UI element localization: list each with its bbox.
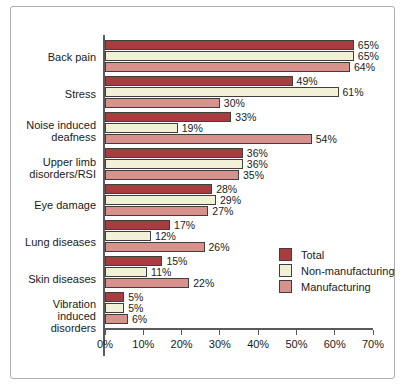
bar-group-vibration-induced-disorders: 5%5%6% bbox=[105, 292, 373, 324]
category-label-upper-limb-disorders-rsi: Upper limb disorders/RSI bbox=[13, 151, 103, 184]
category-label-back-pain: Back pain bbox=[13, 40, 103, 73]
bar-row: 29% bbox=[105, 195, 373, 205]
axis-tick bbox=[258, 330, 259, 335]
bar-row: 27% bbox=[105, 206, 373, 216]
bar-value-label: 17% bbox=[174, 219, 195, 231]
category-label-skin-diseases: Skin diseases bbox=[13, 262, 103, 295]
bar-manufacturing bbox=[105, 242, 205, 252]
bar-row: 35% bbox=[105, 170, 373, 180]
bar-row: 6% bbox=[105, 314, 373, 324]
axis-tick-label: 30% bbox=[209, 338, 231, 350]
bar-value-label: 33% bbox=[235, 111, 256, 123]
category-label-noise-induced-deafness: Noise induced deafness bbox=[13, 114, 103, 147]
bar-total bbox=[105, 220, 170, 230]
bar-row: 64% bbox=[105, 62, 373, 72]
bar-manufacturing bbox=[105, 62, 350, 72]
bar-non-manufacturing bbox=[105, 267, 147, 277]
bar-row: 49% bbox=[105, 76, 373, 86]
bar-group-upper-limb-disorders-rsi: 36%36%35% bbox=[105, 148, 373, 180]
legend-item-manufacturing: Manufacturing bbox=[279, 280, 395, 293]
bar-row: 30% bbox=[105, 98, 373, 108]
bar-row: 17% bbox=[105, 220, 373, 230]
plot-area: 65%65%64%49%61%30%33%19%54%36%36%35%28%2… bbox=[103, 35, 373, 356]
bar-value-label: 6% bbox=[132, 313, 147, 325]
axis-tick-label: 10% bbox=[132, 338, 154, 350]
axis-tick bbox=[373, 330, 374, 335]
category-label-vibration-induced-disorders: Vibration induced disorders bbox=[13, 299, 103, 332]
bar-row: 33% bbox=[105, 112, 373, 122]
bar-group-stress: 49%61%30% bbox=[105, 76, 373, 108]
bar-group-back-pain: 65%65%64% bbox=[105, 40, 373, 72]
category-label-stress: Stress bbox=[13, 77, 103, 110]
bar-row: 61% bbox=[105, 87, 373, 97]
bar-non-manufacturing bbox=[105, 231, 151, 241]
bar-manufacturing bbox=[105, 170, 239, 180]
bar-row: 19% bbox=[105, 123, 373, 133]
bar-total bbox=[105, 256, 162, 266]
axis-tick bbox=[143, 330, 144, 335]
bar-value-label: 61% bbox=[343, 86, 364, 98]
bar-row: 65% bbox=[105, 51, 373, 61]
legend-label-manufacturing: Manufacturing bbox=[301, 281, 371, 293]
bar-chart: Back painStressNoise induced deafnessUpp… bbox=[13, 35, 373, 356]
bar-total bbox=[105, 148, 243, 158]
x-axis: 0%10%20%30%40%50%60%70% bbox=[105, 328, 373, 356]
legend-item-total: Total bbox=[279, 248, 395, 261]
bar-value-label: 22% bbox=[193, 277, 214, 289]
bar-row: 65% bbox=[105, 40, 373, 50]
bar-row: 12% bbox=[105, 231, 373, 241]
bar-non-manufacturing bbox=[105, 51, 354, 61]
bar-total bbox=[105, 76, 293, 86]
axis-tick-label: 20% bbox=[171, 338, 193, 350]
bar-non-manufacturing bbox=[105, 303, 124, 313]
bar-total bbox=[105, 40, 354, 50]
bar-value-label: 12% bbox=[155, 230, 176, 242]
axis-tick-label: 70% bbox=[362, 338, 384, 350]
bar-group-eye-damage: 28%29%27% bbox=[105, 184, 373, 216]
axis-tick-label: 50% bbox=[285, 338, 307, 350]
axis-tick bbox=[181, 330, 182, 335]
legend-swatch-total bbox=[279, 248, 292, 261]
axis-tick bbox=[219, 330, 220, 335]
category-labels: Back painStressNoise induced deafnessUpp… bbox=[13, 35, 103, 356]
bar-value-label: 49% bbox=[297, 75, 318, 87]
bar-total bbox=[105, 184, 212, 194]
bar-value-label: 11% bbox=[151, 266, 171, 278]
legend-swatch-non-manufacturing bbox=[279, 264, 292, 277]
axis-tick-label: 40% bbox=[247, 338, 269, 350]
bar-manufacturing bbox=[105, 206, 208, 216]
bar-row: 36% bbox=[105, 148, 373, 158]
bar-manufacturing bbox=[105, 278, 189, 288]
axis-tick bbox=[296, 330, 297, 335]
bar-non-manufacturing bbox=[105, 195, 216, 205]
legend-label-non-manufacturing: Non-manufacturing bbox=[301, 265, 395, 277]
bar-non-manufacturing bbox=[105, 159, 243, 169]
bar-row: 28% bbox=[105, 184, 373, 194]
bar-total bbox=[105, 112, 231, 122]
bar-value-label: 35% bbox=[243, 169, 264, 181]
bar-value-label: 27% bbox=[212, 205, 233, 217]
chart-figure: Back painStressNoise induced deafnessUpp… bbox=[0, 0, 403, 390]
bar-total bbox=[105, 292, 124, 302]
bar-group-noise-induced-deafness: 33%19%54% bbox=[105, 112, 373, 144]
bar-value-label: 19% bbox=[182, 122, 203, 134]
axis-tick-label: 0% bbox=[97, 338, 113, 350]
category-label-eye-damage: Eye damage bbox=[13, 188, 103, 221]
bar-value-label: 30% bbox=[224, 97, 245, 109]
bar-row: 36% bbox=[105, 159, 373, 169]
chart-frame: Back painStressNoise induced deafnessUpp… bbox=[10, 6, 395, 379]
bar-value-label: 54% bbox=[316, 133, 337, 145]
bar-non-manufacturing bbox=[105, 123, 178, 133]
bar-row: 54% bbox=[105, 134, 373, 144]
bar-value-label: 26% bbox=[209, 241, 230, 253]
bar-row: 5% bbox=[105, 303, 373, 313]
category-label-lung-diseases: Lung diseases bbox=[13, 225, 103, 258]
legend-swatch-manufacturing bbox=[279, 280, 292, 293]
legend: TotalNon-manufacturingManufacturing bbox=[279, 248, 395, 296]
legend-item-non-manufacturing: Non-manufacturing bbox=[279, 264, 395, 277]
legend-label-total: Total bbox=[301, 249, 324, 261]
axis-tick bbox=[334, 330, 335, 335]
bar-manufacturing bbox=[105, 98, 220, 108]
bar-non-manufacturing bbox=[105, 87, 339, 97]
bar-manufacturing bbox=[105, 314, 128, 324]
